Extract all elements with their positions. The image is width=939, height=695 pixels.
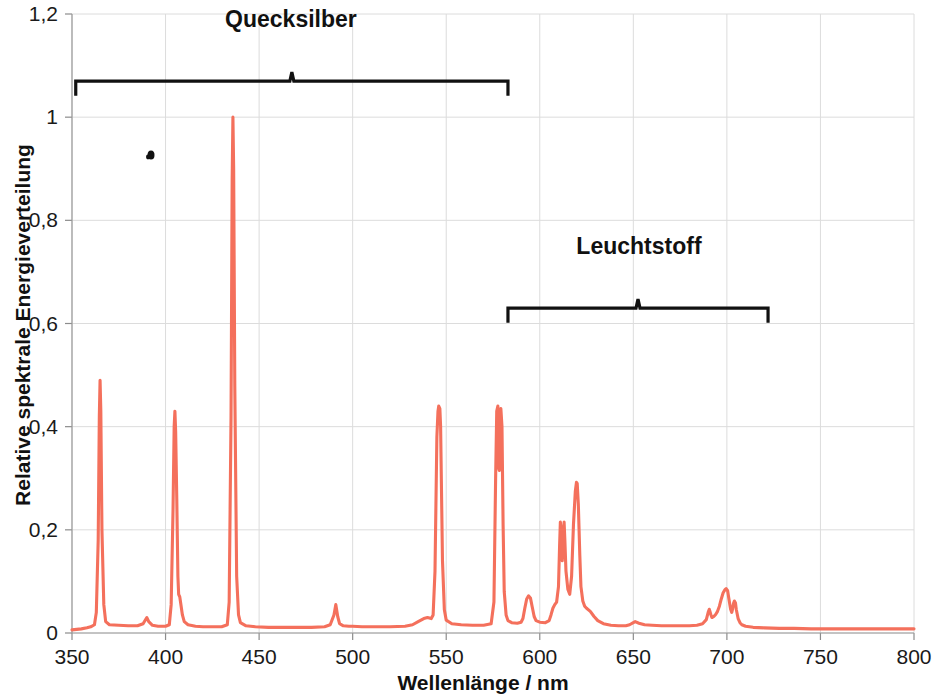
x-tick-label: 800 bbox=[896, 645, 931, 668]
x-tick-label: 550 bbox=[429, 645, 464, 668]
y-tick-label: 1 bbox=[46, 105, 58, 128]
x-tick-label: 450 bbox=[242, 645, 277, 668]
y-tick-label: 1,2 bbox=[29, 2, 58, 25]
x-tick-label: 400 bbox=[148, 645, 183, 668]
spectrum-figure: QuecksilberLeuchtstoff 35040045050055060… bbox=[0, 0, 939, 695]
x-tick-label: 350 bbox=[54, 645, 89, 668]
x-tick-label: 700 bbox=[709, 645, 744, 668]
x-tick-label: 750 bbox=[803, 645, 838, 668]
y-axis-title: Relative spektrale Energieverteilung bbox=[11, 144, 34, 506]
x-tick-label: 500 bbox=[335, 645, 370, 668]
annotations-group: QuecksilberLeuchtstoff bbox=[76, 6, 768, 321]
y-tick-label: 0 bbox=[46, 621, 58, 644]
annotation-label-leuchtstoff: Leuchtstoff bbox=[576, 233, 702, 259]
spectrum-line bbox=[72, 117, 914, 630]
spectrum-chart: QuecksilberLeuchtstoff 35040045050055060… bbox=[0, 0, 939, 695]
x-tick-labels: 350400450500550600650700750800 bbox=[54, 645, 931, 668]
x-tick-label: 650 bbox=[616, 645, 651, 668]
tickmarks-group bbox=[65, 14, 914, 640]
x-tick-label: 600 bbox=[522, 645, 557, 668]
scan-speck-artifact-2 bbox=[146, 155, 150, 160]
y-tick-label: 0,2 bbox=[29, 518, 58, 541]
annotation-bracket-quecksilber bbox=[76, 72, 508, 94]
annotation-bracket-leuchtstoff bbox=[508, 299, 768, 321]
annotation-label-quecksilber: Quecksilber bbox=[225, 6, 357, 32]
x-axis-title: Wellenlänge / nm bbox=[397, 671, 568, 694]
gridlines-group bbox=[72, 14, 914, 633]
